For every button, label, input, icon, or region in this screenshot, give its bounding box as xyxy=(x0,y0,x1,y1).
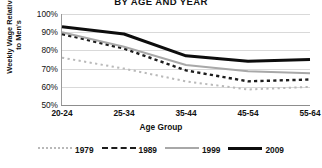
legend-label-1979: 1979 xyxy=(75,145,93,155)
chart-legend: 1979198919992009 xyxy=(0,145,322,155)
x-axis-line xyxy=(61,105,310,106)
y-tick-label: 70% xyxy=(14,64,58,74)
legend-label-2009: 2009 xyxy=(265,145,283,155)
legend-swatch-1989 xyxy=(102,147,136,153)
legend-label-1989: 1989 xyxy=(139,145,157,155)
legend-item-2009[interactable]: 2009 xyxy=(228,145,283,155)
series-line-2009 xyxy=(62,27,310,62)
y-axis-title-line1: Weekly Wage Relative xyxy=(5,0,14,80)
series-line-1979 xyxy=(62,58,310,90)
chart-container: BY AGE AND YEAR Weekly Wage Relative to … xyxy=(0,0,322,168)
x-axis-title: Age Group xyxy=(0,122,322,132)
x-tick-label: 45-54 xyxy=(218,108,278,118)
y-tick-label: 60% xyxy=(14,82,58,92)
series-line-1999 xyxy=(62,32,310,73)
x-tick-label: 35-44 xyxy=(156,108,216,118)
x-tick-label: 25-34 xyxy=(94,108,154,118)
legend-swatch-2009 xyxy=(228,147,262,154)
legend-swatch-1979 xyxy=(38,147,72,153)
x-tick-label: 55-64 xyxy=(280,108,322,118)
y-tick-label: 100% xyxy=(14,9,58,19)
plot-area xyxy=(62,14,310,105)
chart-title: BY AGE AND YEAR xyxy=(0,0,322,5)
legend-item-1979[interactable]: 1979 xyxy=(38,145,93,155)
legend-item-1989[interactable]: 1989 xyxy=(102,145,157,155)
legend-item-1999[interactable]: 1999 xyxy=(165,145,220,155)
y-tick-label: 80% xyxy=(14,45,58,55)
y-tick-label: 90% xyxy=(14,27,58,37)
legend-swatch-1999 xyxy=(165,147,199,153)
data-series-layer xyxy=(62,14,310,105)
x-tick-label: 20-24 xyxy=(32,108,92,118)
legend-label-1999: 1999 xyxy=(202,145,220,155)
